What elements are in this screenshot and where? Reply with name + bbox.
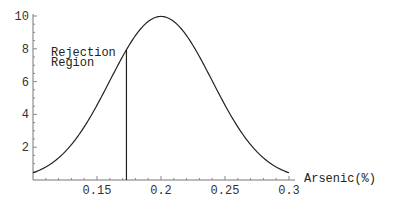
y-tick-label: 4	[22, 108, 29, 122]
y-tick-label: 6	[22, 76, 29, 90]
normal-density-chart: 0.150.20.250.3246810 Rejection Region Ar…	[0, 0, 397, 200]
axis-ticks	[33, 16, 289, 180]
tick-labels: 0.150.20.250.3246810	[15, 10, 300, 198]
x-tick-label: 0.25	[211, 184, 240, 198]
y-tick-label: 10	[15, 10, 29, 24]
density-curve	[33, 16, 289, 172]
y-tick-label: 2	[22, 141, 29, 155]
x-tick-label: 0.3	[278, 184, 300, 198]
y-tick-label: 8	[22, 43, 29, 57]
x-tick-label: 0.15	[83, 184, 112, 198]
x-tick-label: 0.2	[150, 184, 172, 198]
rejection-label-line2: Region	[51, 56, 94, 70]
x-axis-label: Arsenic(%)	[304, 172, 376, 186]
